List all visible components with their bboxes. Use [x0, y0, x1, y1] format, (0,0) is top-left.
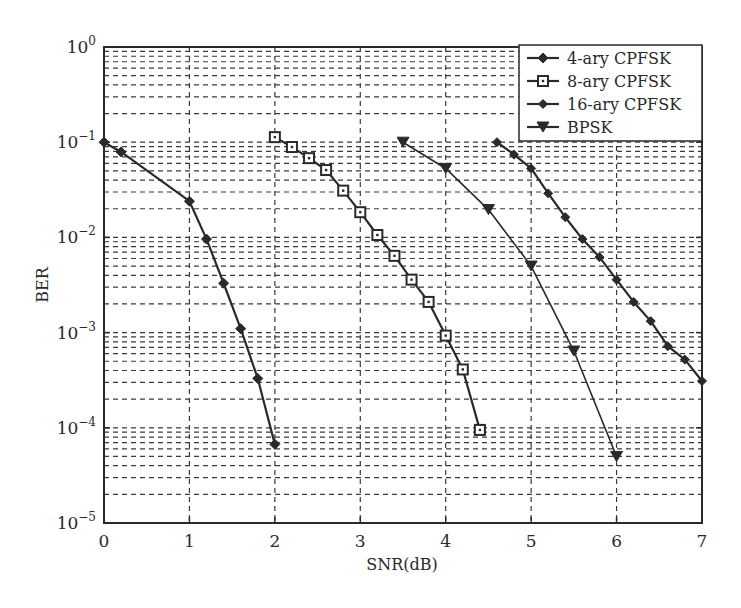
y-tick-label: 10−2 — [57, 224, 96, 247]
data-series — [99, 132, 707, 461]
y-tick-label: 100 — [67, 34, 96, 57]
x-tick-label: 4 — [440, 531, 451, 551]
x-axis-title: SNR(dB) — [366, 555, 438, 574]
legend-label: BPSK — [567, 118, 613, 137]
ber-chart: 01234567 10010−110−210−310−410−5 SNR(dB)… — [0, 0, 741, 608]
legend-label: 16-ary CPFSK — [567, 95, 682, 114]
legend: 4-ary CPFSK8-ary CPFSK16-ary CPFSKBPSK — [519, 45, 702, 141]
y-tick-label: 10−5 — [57, 510, 96, 533]
x-tick-label: 2 — [269, 531, 280, 551]
x-tick-label: 7 — [697, 531, 708, 551]
x-tick-label: 0 — [99, 531, 110, 551]
x-tick-label: 6 — [611, 531, 622, 551]
series-16-ary-cpfsk — [492, 138, 706, 386]
y-axis-title: BER — [33, 266, 52, 302]
y-tick-label: 10−3 — [57, 320, 96, 343]
y-tick-label: 10−1 — [57, 129, 96, 152]
legend-label: 4-ary CPFSK — [567, 49, 672, 68]
x-tick-label: 1 — [184, 531, 195, 551]
series-8-ary-cpfsk — [270, 132, 485, 435]
x-tick-label: 5 — [526, 531, 537, 551]
legend-label: 8-ary CPFSK — [567, 72, 672, 91]
y-tick-label: 10−4 — [57, 415, 97, 438]
x-tick-label: 3 — [355, 531, 366, 551]
